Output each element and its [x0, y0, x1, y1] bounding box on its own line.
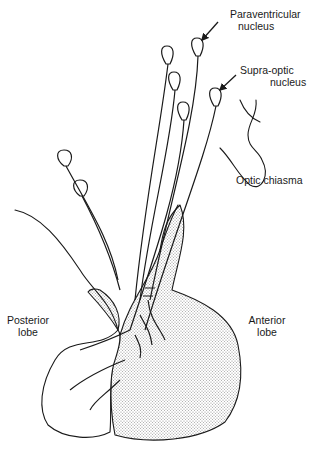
label-supraoptic-nucleus: Supra-optic nucleus — [240, 64, 306, 88]
label-paraventricular-nucleus: Paraventricular nucleus — [230, 8, 301, 32]
anterior-lobe — [111, 205, 241, 440]
label-line: Supra-optic — [240, 64, 306, 76]
neuron-supraoptic — [210, 88, 222, 106]
label-line: Posterior — [6, 314, 50, 326]
label-posterior-lobe: Posterior lobe — [6, 314, 50, 338]
label-optic-chiasma: Optic chiasma — [236, 174, 303, 186]
pituitary-diagram: Paraventricular nucleus Supra-optic nucl… — [0, 0, 320, 449]
label-line: nucleus — [240, 76, 306, 88]
label-line: Paraventricular — [230, 8, 301, 20]
label-anterior-lobe: Anterior lobe — [245, 314, 289, 338]
label-line: nucleus — [230, 20, 301, 32]
label-line: Anterior — [245, 314, 289, 326]
label-line: lobe — [6, 326, 50, 338]
neuron-paraventricular-1 — [192, 38, 204, 56]
pars-tuberalis — [88, 289, 119, 330]
posterior-lobe — [42, 330, 120, 437]
label-line: lobe — [245, 326, 289, 338]
